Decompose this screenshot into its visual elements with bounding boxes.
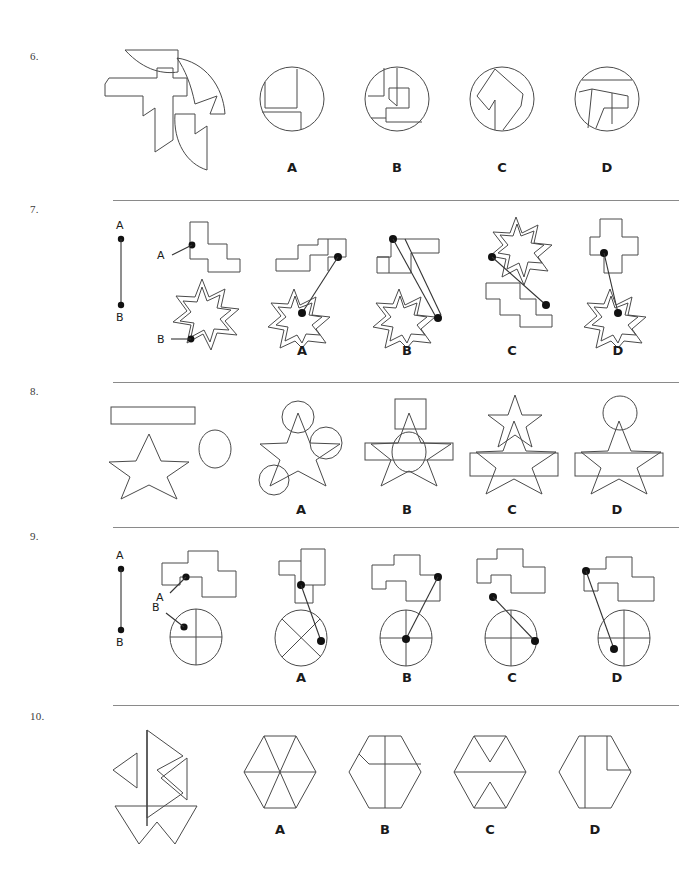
q10-option-c-label: C: [480, 822, 500, 837]
q6-stimulus: [95, 42, 245, 162]
question-number-10: 10.: [30, 710, 44, 722]
q6-option-b-label: B: [387, 160, 407, 175]
divider-above-q10: [113, 705, 679, 706]
q8-option-a-label: A: [291, 502, 311, 517]
q7-option-b-label: B: [397, 343, 417, 358]
q9-option-d-dot-bottom: [610, 645, 618, 653]
question-8: 8. A B C: [0, 377, 689, 525]
q9-ref-dot-b: [118, 627, 124, 633]
q6-option-d-figure[interactable]: [574, 66, 640, 132]
q7-stim-label-a: A: [157, 249, 165, 262]
q7-option-c-figure[interactable]: [470, 215, 570, 350]
q7-option-c-label: C: [502, 343, 522, 358]
question-number-6: 6.: [30, 50, 39, 62]
q7-option-d-dot-bottom: [614, 309, 622, 317]
question-7: 7. A B A B: [0, 195, 689, 377]
q7-ref-dot-b: [118, 302, 124, 308]
q7-option-d-figure[interactable]: [578, 215, 670, 350]
q7-option-a-label: A: [292, 343, 312, 358]
q10-option-a-figure[interactable]: [240, 732, 320, 812]
q9-option-d-figure[interactable]: [578, 545, 668, 670]
question-6: 6. A B: [0, 0, 689, 195]
divider-above-q8: [113, 382, 679, 383]
question-number-8: 8.: [30, 385, 39, 397]
q9-option-b-dot-bottom: [402, 635, 410, 643]
q6-option-a-label: A: [282, 160, 302, 175]
q10-option-d-figure[interactable]: [555, 732, 635, 812]
q7-ref-label-a: A: [116, 219, 124, 232]
q9-option-a-dot-bottom: [317, 637, 325, 645]
question-number-9: 9.: [30, 530, 39, 542]
q9-stimulus: A B: [140, 545, 255, 670]
q8-option-c-figure[interactable]: [468, 393, 560, 501]
question-10: 10. A B: [0, 690, 689, 876]
q8-option-d-label: D: [607, 502, 627, 517]
question-9: 9. A B A B: [0, 525, 689, 690]
q7-stimulus: A B: [145, 217, 250, 352]
worksheet-page: 6. A B: [0, 0, 689, 876]
q9-option-d-label: D: [607, 670, 627, 685]
q6-option-c-label: C: [492, 160, 512, 175]
q7-ref-label-b: B: [116, 311, 124, 324]
q10-option-b-figure[interactable]: [345, 732, 425, 812]
q8-option-b-figure[interactable]: [363, 395, 455, 501]
q7-reference-line: A B: [105, 217, 145, 347]
q10-option-c-figure[interactable]: [450, 732, 530, 812]
q9-option-a-label: A: [291, 670, 311, 685]
q9-option-c-label: C: [502, 670, 522, 685]
q6-option-b-figure[interactable]: [364, 66, 430, 132]
q10-option-b-label: B: [375, 822, 395, 837]
q6-option-d-label: D: [597, 160, 617, 175]
q9-ref-label-b: B: [116, 636, 124, 649]
q9-option-b-figure[interactable]: [368, 545, 458, 670]
q8-stimulus: [105, 399, 235, 504]
q9-stim-label-b: B: [152, 601, 160, 614]
q9-option-c-dot-bottom: [531, 637, 539, 645]
q10-option-d-label: D: [585, 822, 605, 837]
q7-option-a-dot-bottom: [298, 309, 306, 317]
q10-option-a-label: A: [270, 822, 290, 837]
q8-option-d-figure[interactable]: [573, 393, 665, 501]
q8-option-a-figure[interactable]: [258, 401, 344, 501]
q10-stimulus: [105, 718, 220, 848]
q9-reference-line: A B: [105, 547, 145, 667]
q7-option-d-label: D: [608, 343, 628, 358]
question-number-7: 7.: [30, 203, 39, 215]
q8-option-c-label: C: [502, 502, 522, 517]
divider-above-q7: [113, 200, 679, 201]
q9-option-b-label: B: [397, 670, 417, 685]
q9-option-a-figure[interactable]: [263, 545, 353, 670]
q6-option-c-figure[interactable]: [469, 66, 535, 132]
q8-option-b-label: B: [397, 502, 417, 517]
q9-option-c-figure[interactable]: [473, 545, 563, 670]
q7-option-a-figure[interactable]: [262, 215, 354, 350]
q7-stim-label-b: B: [157, 333, 165, 346]
q7-option-c-dot-bottom: [542, 301, 550, 309]
divider-above-q9: [113, 527, 679, 528]
q6-option-a-figure[interactable]: [259, 66, 325, 132]
q7-option-b-figure[interactable]: [367, 215, 459, 350]
q9-ref-label-a: A: [116, 549, 124, 562]
q7-option-b-dot-bottom: [434, 314, 442, 322]
